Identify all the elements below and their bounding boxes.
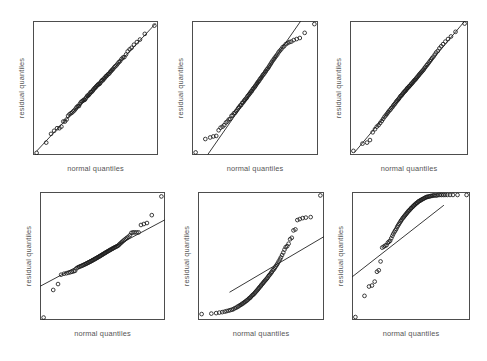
data-point [313, 22, 317, 26]
x-axis-label: normal quantiles [352, 329, 470, 338]
x-axis-label: normal quantiles [198, 329, 324, 338]
panel-plot-area [192, 21, 318, 155]
panel-plot-area [40, 192, 165, 320]
qq-panel-1 [33, 21, 158, 155]
data-point [354, 315, 358, 319]
data-point [200, 312, 204, 316]
x-axis-label: normal quantiles [350, 164, 468, 173]
y-axis-label: residual quantiles [334, 21, 343, 155]
x-axis-label: normal quantiles [40, 329, 165, 338]
data-point [150, 213, 154, 217]
qq-panel-3 [350, 21, 468, 155]
data-point-group [352, 22, 467, 153]
data-point [368, 138, 372, 142]
data-point [463, 22, 467, 26]
x-axis-label: normal quantiles [33, 164, 158, 173]
y-axis-label: residual quantiles [17, 21, 26, 155]
data-point [373, 280, 377, 284]
y-axis-label: residual quantiles [176, 21, 185, 155]
data-point [42, 316, 46, 320]
qq-panel-2 [192, 21, 318, 155]
panel-plot-area [33, 21, 158, 155]
data-point [56, 282, 60, 286]
data-point [203, 137, 207, 141]
data-point [194, 151, 198, 155]
data-point [465, 193, 469, 197]
data-point [160, 195, 164, 199]
qq-plot-figure: normal quantilesresidual quantilesnormal… [0, 0, 487, 361]
y-axis-label: residual quantiles [24, 192, 33, 320]
data-point-group [35, 24, 156, 155]
qq-panel-4 [40, 192, 165, 320]
data-point-group [42, 195, 163, 320]
data-point [35, 151, 39, 155]
data-point-group [194, 22, 316, 154]
data-point [363, 294, 367, 298]
panel-plot-area [350, 21, 468, 155]
data-point [379, 260, 383, 264]
reference-line [352, 205, 444, 277]
qq-panel-6 [352, 192, 470, 320]
data-point [209, 312, 213, 316]
y-axis-label: residual quantiles [336, 192, 345, 320]
data-point [51, 288, 55, 292]
y-axis-label: residual quantiles [182, 192, 191, 320]
qq-panel-5 [198, 192, 324, 320]
data-point [303, 31, 307, 35]
data-point-group [354, 193, 469, 319]
data-point [309, 215, 313, 219]
panel-plot-area [352, 192, 470, 320]
panel-plot-area [198, 192, 324, 320]
data-point-group [200, 194, 322, 316]
data-point [352, 149, 356, 153]
data-point [319, 194, 323, 198]
data-point [456, 193, 460, 197]
x-axis-label: normal quantiles [192, 164, 318, 173]
